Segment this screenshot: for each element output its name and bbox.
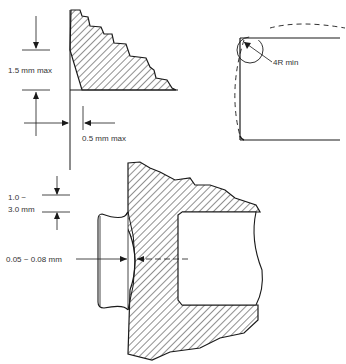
gap-label: 0.05 ~ 0.08 mm <box>6 255 62 264</box>
bore-section <box>42 162 262 360</box>
rim-top-label: 1.0 ~ <box>8 193 26 202</box>
width-max-label: 0.5 mm max <box>82 134 126 143</box>
rim-bottom-label: 3.0 mm <box>8 205 35 214</box>
burr-section <box>22 10 178 170</box>
corner-radius-detail <box>235 24 345 140</box>
height-max-label: 1.5 mm max <box>8 66 52 75</box>
technical-diagram <box>0 0 346 364</box>
radius-label: 4R min <box>273 58 298 67</box>
